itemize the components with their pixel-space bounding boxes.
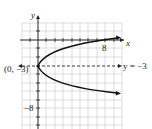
axis-of-symmetry	[18, 64, 122, 68]
x-axis-label: x	[125, 38, 130, 48]
vertex-point	[36, 64, 39, 67]
y-tick-label-neg8: −8	[24, 103, 34, 113]
y-axis-label: y	[30, 10, 35, 20]
vertex-label: (0, −3)	[4, 64, 29, 74]
parabola	[38, 36, 121, 96]
symmetry-label: y = −3	[123, 61, 147, 71]
x-tick-label-8: 8	[102, 43, 107, 53]
y-axis-arrow	[36, 15, 40, 19]
graph: y x 8 −8 (0, −3) y = −3	[0, 0, 152, 129]
